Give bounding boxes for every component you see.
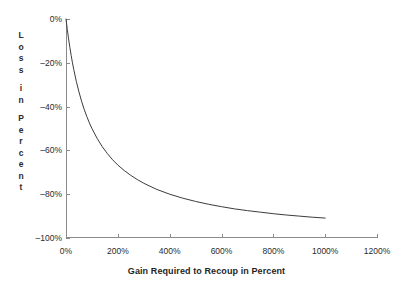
plot-area — [0, 0, 413, 292]
axes-lines — [66, 19, 377, 238]
data-series-lines — [66, 19, 325, 218]
x-axis-title: Gain Required to Recoup in Percent — [0, 266, 413, 276]
chart-container: LossinPercent 0%–20%–40%–60%–80%–100% 0%… — [0, 0, 413, 292]
series-line — [66, 19, 325, 218]
axis-ticks — [66, 20, 378, 239]
